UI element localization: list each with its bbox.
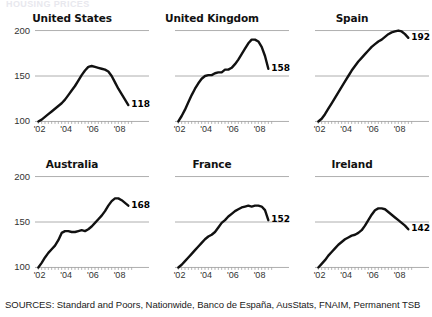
y-tick-label: 200 (4, 171, 30, 182)
series-line (178, 40, 268, 122)
series-line (38, 198, 128, 267)
plot-area (315, 172, 415, 272)
x-tick-label: '06 (227, 270, 239, 280)
x-tick-label: '06 (367, 270, 379, 280)
x-tick-label: '04 (200, 270, 212, 280)
series-line (178, 206, 268, 268)
x-tick-label: '02 (34, 270, 46, 280)
chart-row-top: United States 118'02'04'06'08200150100 U… (0, 12, 432, 152)
charts-grid: United States 118'02'04'06'08200150100 U… (0, 12, 432, 292)
chart-panel-australia: Australia 168'02'04'06'08200150100 (2, 158, 142, 298)
x-tick-label: '02 (314, 270, 326, 280)
sources-note: SOURCES: Standard and Poors, Nationwide,… (5, 299, 420, 310)
x-tick-label: '02 (174, 124, 186, 134)
plot-area (35, 26, 135, 126)
plot-area (175, 172, 275, 272)
x-tick-label: '04 (340, 270, 352, 280)
chart-panel-united-kingdom: United Kingdom 158'02'04'06'08 (142, 12, 282, 152)
series-line (38, 66, 128, 121)
y-tick-label: 100 (4, 115, 30, 126)
x-tick-label: '04 (60, 270, 72, 280)
x-tick-label: '04 (60, 124, 72, 134)
x-tick-label: '08 (394, 270, 406, 280)
series-line (318, 208, 408, 267)
x-tick-label: '04 (200, 124, 212, 134)
chart-row-bottom: Australia 168'02'04'06'08200150100 Franc… (0, 158, 432, 298)
x-tick-label: '06 (87, 270, 99, 280)
infographic-root: HOUSING PRICES United States 118'02'04'0… (0, 0, 432, 317)
plot-area (315, 26, 415, 126)
plot-area (35, 172, 135, 272)
chart-title: France (142, 158, 282, 170)
x-tick-label: '04 (340, 124, 352, 134)
y-tick-label: 150 (4, 70, 30, 81)
chart-panel-spain: Spain 192'02'04'06'08 (282, 12, 422, 152)
x-tick-label: '08 (394, 124, 406, 134)
x-tick-label: '08 (254, 124, 266, 134)
chart-panel-france: France 152'02'04'06'08 (142, 158, 282, 298)
x-tick-label: '02 (314, 124, 326, 134)
chart-title: United States (2, 12, 142, 24)
chart-title: Australia (2, 158, 142, 170)
endpoint-value-label: 142 (411, 223, 430, 233)
x-tick-label: '02 (174, 270, 186, 280)
chart-panel-ireland: Ireland 142'02'04'06'08 (282, 158, 422, 298)
x-tick-label: '02 (34, 124, 46, 134)
x-tick-label: '06 (367, 124, 379, 134)
kicker-title: HOUSING PRICES (6, 0, 90, 9)
y-tick-label: 200 (4, 25, 30, 36)
x-tick-label: '06 (227, 124, 239, 134)
x-tick-label: '06 (87, 124, 99, 134)
x-tick-label: '08 (254, 270, 266, 280)
chart-title: Spain (282, 12, 422, 24)
plot-area (175, 26, 275, 126)
x-tick-label: '08 (114, 124, 126, 134)
chart-title: Ireland (282, 158, 422, 170)
endpoint-value-label: 192 (411, 32, 430, 42)
x-tick-label: '08 (114, 270, 126, 280)
y-tick-label: 100 (4, 261, 30, 272)
chart-title: United Kingdom (142, 12, 282, 24)
y-tick-label: 150 (4, 216, 30, 227)
chart-panel-united-states: United States 118'02'04'06'08200150100 (2, 12, 142, 152)
